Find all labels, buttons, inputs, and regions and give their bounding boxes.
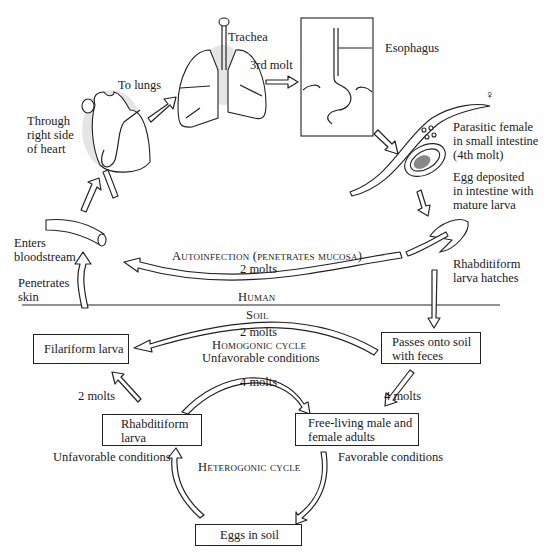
female-symbol: ♀: [485, 88, 494, 102]
arrow-lungs-to-esophagus: [266, 76, 298, 88]
rhabditiform-hatching-illustration: [406, 220, 468, 256]
penetrates-skin-label: Penetrates skin: [18, 276, 69, 304]
arrow-hatch-to-soil: [428, 270, 440, 328]
passes-onto-soil-box: Passes onto soil with feces: [381, 332, 481, 364]
esophagus-label: Esophagus: [385, 41, 439, 55]
enters-bloodstream-label: Enters bloodstream: [14, 236, 76, 264]
autoinfection-molts-label: 2 molts: [240, 262, 277, 276]
favorable-conditions-label: Favorable conditions: [338, 450, 443, 464]
soil-region-label: Soil: [246, 308, 269, 322]
four-molts-center-label: 4 molts: [240, 375, 277, 389]
heterogonic-cycle-label: Heterogonic cycle: [198, 460, 301, 474]
arrow-rhabditiform-to-filariform: [112, 372, 141, 402]
through-heart-label: Through right side of heart: [27, 114, 74, 156]
arrow-egg-to-hatch: [417, 190, 430, 216]
unfavorable-conditions-left-label: Unfavorable conditions: [53, 450, 171, 464]
rhabditiform-hatches-label: Rhabditiform larva hatches: [453, 257, 520, 285]
rhabditiform-larva-box: Rhabditiform larva: [102, 414, 202, 446]
trachea-label: Trachea: [228, 30, 268, 44]
homogonic-cycle-label: Homogonic cycle: [212, 338, 306, 352]
homogonic-conditions-label: Unfavorable conditions: [202, 351, 320, 365]
arrow-skin-to-bloodstream: [75, 252, 91, 308]
two-molts-left-label: 2 molts: [78, 389, 115, 403]
esophagus-illustration: [301, 18, 373, 136]
arrow-vessel-to-heart: [81, 178, 101, 212]
egg-deposited-label: Egg deposited in intestine with mature l…: [453, 170, 534, 212]
third-molt-label: 3rd molt: [250, 58, 293, 72]
filariform-larva-box: Filariform larva: [33, 334, 129, 364]
homogonic-molts-label: 2 molts: [240, 325, 277, 339]
eggs-in-soil-box: Eggs in soil: [195, 524, 302, 546]
human-region-label: Human: [238, 290, 276, 304]
four-molts-right-label: 4 molts: [384, 389, 421, 403]
free-living-adults-box: Free-living male and female adults: [295, 413, 419, 446]
arrow-esophagus-to-intestine: [374, 130, 398, 154]
arrow-heart-to-lungs: [148, 97, 176, 122]
to-lungs-label: To lungs: [118, 78, 161, 92]
parasitic-female-label: Parasitic female in small intestine (4th…: [453, 120, 538, 162]
autoinfection-label: Autoinfection (penetrates mucosa): [172, 249, 362, 263]
arrow-eggs-to-rhabditiform: [168, 448, 204, 518]
life-cycle-diagram: Trachea 3rd molt To lungs Through right …: [0, 0, 546, 554]
